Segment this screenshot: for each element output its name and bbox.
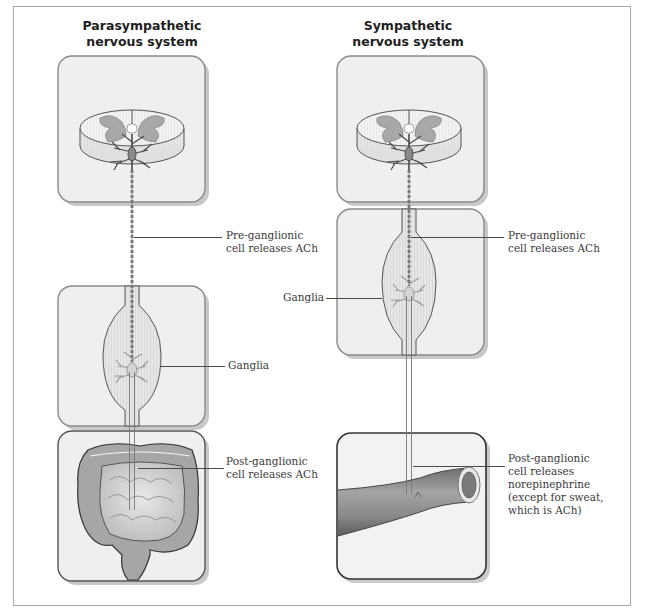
label-line: cell releases ACh	[226, 468, 318, 481]
label-para-ganglia: Ganglia	[228, 359, 269, 372]
label-para-postganglionic: Post-ganglionic cell releases ACh	[226, 455, 318, 481]
leader-para-pre	[134, 237, 222, 238]
diagram-illustration	[0, 0, 645, 616]
label-line: Pre-ganglionic	[508, 229, 600, 242]
panel-intestine	[58, 431, 209, 585]
panel-symp-spinal-cord	[337, 56, 488, 206]
label-symp-postganglionic: Post-ganglionic cell releases norepineph…	[508, 452, 604, 517]
label-line: Post-ganglionic	[226, 455, 318, 468]
label-symp-preganglionic: Pre-ganglionic cell releases ACh	[508, 229, 600, 255]
panel-para-spinal-cord	[58, 56, 209, 206]
label-line: Post-ganglionic	[508, 452, 604, 465]
panel-symp-ganglia	[337, 209, 488, 359]
leader-symp-post	[413, 466, 505, 467]
label-symp-ganglia: Ganglia	[283, 291, 324, 304]
panel-blood-vessel	[337, 433, 490, 583]
label-line: (except for sweat,	[508, 491, 604, 504]
label-line: which is ACh)	[508, 504, 604, 517]
label-line: cell releases ACh	[226, 242, 318, 255]
leader-symp-ganglia	[326, 298, 382, 299]
label-line: cell releases	[508, 465, 604, 478]
label-line: norepinephrine	[508, 478, 604, 491]
label-para-preganglionic: Pre-ganglionic cell releases ACh	[226, 229, 318, 255]
label-line: Pre-ganglionic	[226, 229, 318, 242]
leader-symp-pre	[411, 237, 504, 238]
label-line: cell releases ACh	[508, 242, 600, 255]
leader-para-ganglia	[161, 366, 225, 367]
leader-para-post	[138, 468, 224, 469]
